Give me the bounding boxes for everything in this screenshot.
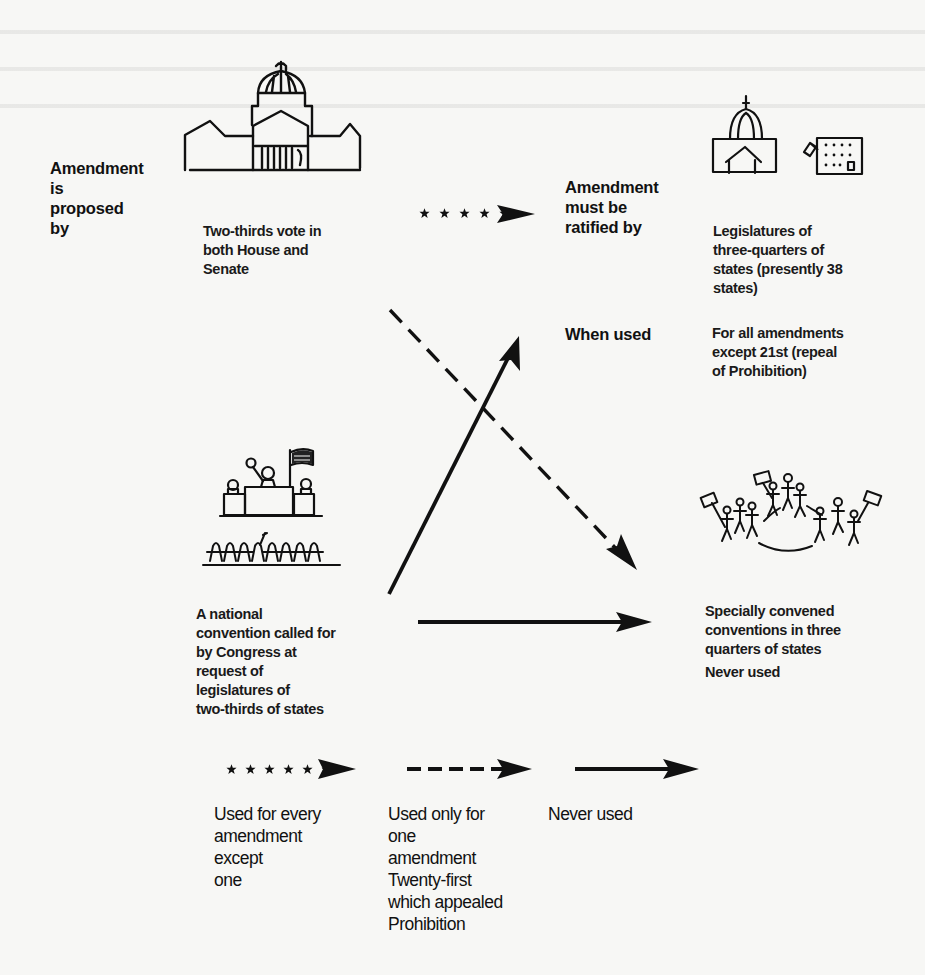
row-header-proposed-by: Amendment is proposed by: [50, 158, 144, 238]
legend-starred-arrow: [226, 759, 356, 779]
ratification-legislatures-text: Legislatures of three-quarters of states…: [713, 222, 842, 298]
convention-audience-icon: [203, 533, 340, 565]
ratification-conventions-text: Specially convened conventions in three …: [705, 602, 841, 659]
legend-dashed-text: Used only for one amendment Twenty-first…: [388, 803, 503, 935]
legend-starred-text: Used for every amendment except one: [214, 803, 321, 891]
crowd-with-signs-icon: [701, 471, 882, 551]
row-header-when-used: When used: [565, 324, 651, 344]
capitol-building-icon: [185, 62, 360, 170]
convention-flag-icon: [292, 450, 312, 464]
ratification-conventions-when-used: Never used: [705, 663, 780, 682]
proposal-congress-text: Two-thirds vote in both House and Senate: [203, 222, 321, 279]
legend-dashed-arrow: [407, 759, 532, 779]
ratification-legislatures-when-used: For all amendments except 21st (repeal o…: [712, 324, 844, 381]
arrow-convention-to-state-conventions: [418, 612, 652, 632]
state-capitol-icon: [713, 96, 776, 173]
proposal-national-convention-text: A national convention called for by Cong…: [196, 605, 336, 719]
state-office-building-icon: [804, 138, 862, 174]
row-header-ratified-by: Amendment must be ratified by: [565, 177, 659, 237]
arrow-congress-to-legislatures: [419, 205, 535, 223]
legend-solid-arrow: [575, 759, 699, 779]
arrow-convention-to-legislatures: [389, 336, 520, 594]
legend-solid-text: Never used: [548, 803, 633, 825]
